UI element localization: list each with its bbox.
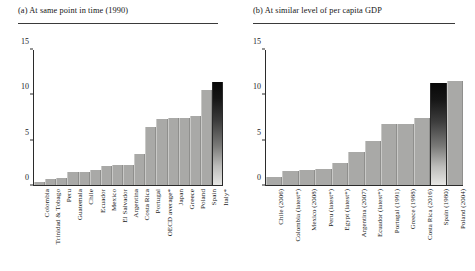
x-label-slot: Guatemala <box>68 188 79 270</box>
y-tick-label-a-0: 0 <box>25 173 29 182</box>
x-label-slot: Japan <box>168 188 179 270</box>
bar-slot <box>282 50 298 185</box>
bar-b-11 <box>447 81 463 185</box>
bar-slot <box>212 50 223 185</box>
bar-slot <box>179 50 190 185</box>
x-label-slot: Spain <box>202 188 213 270</box>
bar-a-4 <box>79 172 90 186</box>
bar-a-8 <box>123 165 134 185</box>
panel-b-x-tick-labels: Chile (2006)Colombia (latest*)Mexico (20… <box>266 188 464 270</box>
chart-panel-a: (a) At same point in time (1990) 051015 … <box>0 0 240 271</box>
panel-b-bar-group <box>266 50 463 185</box>
bar-slot <box>397 50 413 185</box>
x-label-slot: Poland <box>190 188 201 270</box>
x-label-slot: Mexico <box>101 188 112 270</box>
x-label-slot: Greece <box>179 188 190 270</box>
bar-slot <box>123 50 134 185</box>
chart-panel-b: (b) At similar level of per capita GDP 0… <box>235 0 475 271</box>
bar-b-3 <box>315 169 331 185</box>
bar-a-2 <box>56 178 67 185</box>
bar-slot <box>101 50 112 185</box>
bar-a-6 <box>101 166 112 185</box>
bar-b-8 <box>397 124 413 185</box>
x-label-slot: Egypt (latest*) <box>332 188 349 270</box>
x-label-slot: Peru (latest*) <box>316 188 333 270</box>
bar-slot <box>145 50 156 185</box>
x-label-slot: Greece (1988) <box>398 188 415 270</box>
y-tick-mark-a-15 <box>30 49 33 50</box>
panel-a-x-tick-labels: ColombiaTrinidad & TobagoPeruGuatemalaCh… <box>34 188 224 270</box>
bar-slot <box>168 50 179 185</box>
bar-slot <box>348 50 364 185</box>
bar-b-10 <box>430 83 446 185</box>
bar-b-9 <box>414 118 430 186</box>
x-label-slot: Argentina <box>123 188 134 270</box>
x-label-slot: Trinidad & Tobago <box>45 188 56 270</box>
x-label-slot: Argentina (2007) <box>349 188 366 270</box>
y-tick-label-a-10: 10 <box>21 82 29 91</box>
bar-slot <box>190 50 201 185</box>
bar-a-7 <box>112 165 123 185</box>
x-label-slot: Poland (2004) <box>448 188 465 270</box>
x-label-slot: Portugal (1991) <box>382 188 399 270</box>
bar-slot <box>90 50 101 185</box>
x-label-slot: Costa Rica <box>135 188 146 270</box>
bar-b-6 <box>365 141 381 185</box>
bar-b-0 <box>266 177 282 185</box>
y-tick-mark-a-10 <box>30 94 33 95</box>
bar-slot <box>315 50 331 185</box>
x-label-slot: Colombia (latest*) <box>283 188 300 270</box>
bar-b-4 <box>332 163 348 185</box>
x-label-slot: OECD average* <box>157 188 168 270</box>
bar-slot <box>201 50 212 185</box>
y-tick-label-b-15: 15 <box>253 37 261 46</box>
bar-slot <box>381 50 397 185</box>
bar-slot <box>365 50 381 185</box>
y-tick-label-b-10: 10 <box>253 82 261 91</box>
x-label-slot: Ecuador <box>90 188 101 270</box>
bar-slot <box>112 50 123 185</box>
panel-a-plot-area: 051015 <box>33 50 223 186</box>
figure-container: (a) At same point in time (1990) 051015 … <box>0 0 475 271</box>
bar-slot <box>266 50 282 185</box>
bar-a-16 <box>212 82 223 185</box>
bar-b-7 <box>381 124 397 185</box>
panel-b-title: (b) At similar level of per capita GDP <box>253 6 382 15</box>
panel-b-title-rule <box>253 23 455 24</box>
bar-a-12 <box>168 118 179 185</box>
x-tick-label-a-16: Italy* <box>222 189 230 206</box>
bar-slot <box>430 50 446 185</box>
x-tick-label-b-11: Poland (2004) <box>459 189 466 229</box>
panel-a-bar-group <box>34 50 223 185</box>
bar-slot <box>447 50 463 185</box>
bar-a-1 <box>45 179 56 185</box>
panel-b-x-axis <box>265 185 463 186</box>
x-label-slot: Portugal <box>146 188 157 270</box>
x-label-slot: Spain (1980) <box>431 188 448 270</box>
y-tick-mark-b-10 <box>262 94 265 95</box>
bar-b-5 <box>348 152 364 185</box>
y-tick-mark-b-5 <box>262 139 265 140</box>
bar-slot <box>79 50 90 185</box>
x-label-slot: Costa Rica (2016) <box>415 188 432 270</box>
y-tick-label-a-15: 15 <box>21 37 29 46</box>
bar-slot <box>34 50 45 185</box>
y-tick-label-a-5: 5 <box>25 127 29 136</box>
bar-slot <box>67 50 78 185</box>
y-tick-mark-b-15 <box>262 49 265 50</box>
y-tick-mark-a-0 <box>30 185 33 186</box>
bar-a-13 <box>179 118 190 186</box>
panel-b-plot-area: 051015 <box>265 50 463 186</box>
bar-a-0 <box>34 182 45 185</box>
x-label-slot: Colombia <box>34 188 45 270</box>
y-tick-label-b-0: 0 <box>257 173 261 182</box>
bar-slot <box>414 50 430 185</box>
bar-slot <box>45 50 56 185</box>
y-tick-mark-a-5 <box>30 139 33 140</box>
x-label-slot: Mexico (2008) <box>299 188 316 270</box>
bar-slot <box>134 50 145 185</box>
bar-a-9 <box>134 154 145 185</box>
bar-a-14 <box>190 116 201 185</box>
y-tick-mark-b-0 <box>262 185 265 186</box>
x-label-slot: Peru <box>56 188 67 270</box>
